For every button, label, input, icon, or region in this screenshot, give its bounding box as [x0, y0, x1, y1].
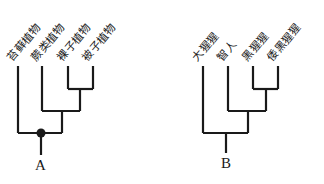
cladogram-lines — [0, 0, 324, 184]
root-node-dot — [37, 129, 46, 138]
cladogram-b-branches — [203, 66, 278, 153]
diagram-label-b: B — [221, 155, 231, 172]
diagram-label-a: A — [35, 157, 46, 174]
cladogram-a-branches — [18, 66, 93, 155]
